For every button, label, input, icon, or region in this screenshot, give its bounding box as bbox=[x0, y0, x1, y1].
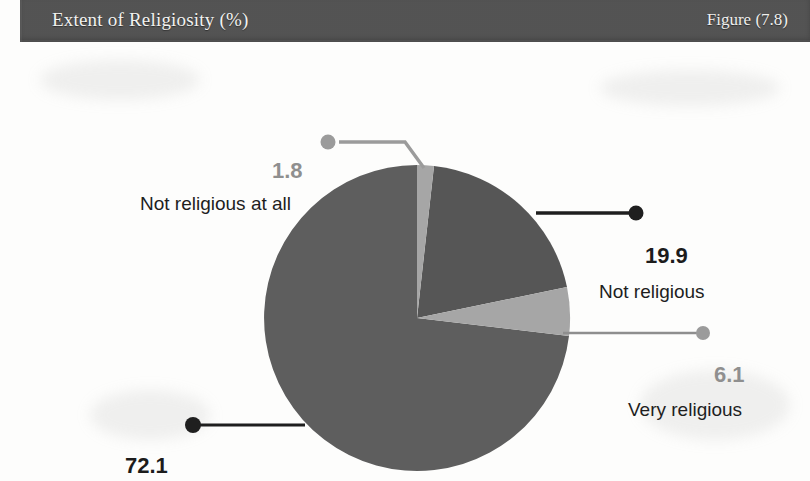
pie-chart: 1.8 Not religious at all 19.9 Not religi… bbox=[0, 42, 810, 481]
slice-label-very-religious: Very religious bbox=[628, 400, 742, 419]
slice-value-not-religious: 19.9 bbox=[645, 245, 688, 267]
figure-page: Extent of Religiosity (%) Figure (7.8) bbox=[0, 0, 810, 481]
slice-value-very-religious: 6.1 bbox=[714, 364, 745, 386]
figure-header-bar: Extent of Religiosity (%) Figure (7.8) bbox=[20, 0, 810, 42]
figure-number-label: Figure (7.8) bbox=[707, 10, 788, 30]
leader-dot-very-religious bbox=[696, 326, 710, 340]
leader-dot-not-religious bbox=[629, 206, 644, 221]
page-title: Extent of Religiosity (%) bbox=[52, 9, 249, 31]
slice-value-not-religious-at-all: 1.8 bbox=[272, 160, 303, 182]
slice-label-not-religious: Not religious bbox=[599, 282, 705, 301]
leader-line-not-religious-at-all bbox=[339, 142, 424, 168]
slice-value-religious: 72.1 bbox=[125, 455, 168, 477]
leader-dot-not-religious-at-all bbox=[321, 135, 336, 150]
leader-dot-religious bbox=[185, 417, 201, 433]
slice-label-not-religious-at-all: Not religious at all bbox=[140, 194, 291, 213]
